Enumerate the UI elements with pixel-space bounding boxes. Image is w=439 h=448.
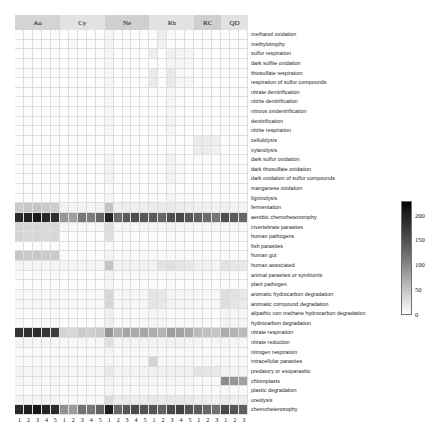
heatmap-cell [203,184,212,194]
heatmap-cell [123,194,132,204]
heatmap-cell [230,271,239,281]
heatmap-cell [167,107,176,117]
heatmap-cell [15,165,24,175]
heatmap-cell [69,405,78,415]
heatmap-cell [230,78,239,88]
heatmap-cell [221,290,230,300]
heatmap-cell [69,338,78,348]
heatmap-cell [140,174,149,184]
heatmap-cell [96,126,105,136]
heatmap-cell [105,213,114,223]
heatmap-cell [194,136,203,146]
heatmap-cell [239,78,248,88]
heatmap-cell [230,328,239,338]
heatmap-cell [105,328,114,338]
heatmap-cell [194,126,203,136]
heatmap-cell [15,367,24,377]
heatmap-cell [78,49,87,59]
heatmap-cell [176,280,185,290]
heatmap-cell [24,213,33,223]
heatmap-cell [114,146,123,156]
heatmap-cell [69,300,78,310]
heatmap-cell [51,97,60,107]
heatmap-cell [239,251,248,261]
heatmap-cell [51,300,60,310]
heatmap-cell [140,348,149,358]
heatmap-cell [114,338,123,348]
heatmap-cell [149,155,158,165]
heatmap-cell [42,126,51,136]
heatmap-cell [105,146,114,156]
heatmap-cell [87,126,96,136]
heatmap-cell [105,97,114,107]
heatmap-cell [140,405,149,415]
x-tick-label: 3 [78,417,87,429]
heatmap-cell [239,165,248,175]
heatmap-cell [60,69,69,79]
heatmap-cell [158,242,167,252]
heatmap-cell [33,69,42,79]
heatmap-cell [212,319,221,329]
heatmap-cell [33,367,42,377]
heatmap-cell [60,194,69,204]
heatmap-cell [87,357,96,367]
heatmap-cell [78,309,87,319]
heatmap-cell [60,107,69,117]
heatmap-cell [42,232,51,242]
heatmap-cell [131,165,140,175]
x-tick-label: 2 [24,417,33,429]
heatmap-cell [149,328,158,338]
heatmap-cell [60,174,69,184]
heatmap-cell [15,88,24,98]
heatmap-cell [185,338,194,348]
heatmap-cell [167,357,176,367]
heatmap-cell [203,155,212,165]
heatmap-cell [87,309,96,319]
heatmap-cell [140,78,149,88]
heatmap-cell [78,405,87,415]
heatmap-cell [96,165,105,175]
heatmap-cell [176,232,185,242]
heatmap-cell [15,261,24,271]
heatmap-cell [15,59,24,69]
heatmap-cell [60,338,69,348]
heatmap-cell [60,328,69,338]
heatmap-cell [230,377,239,387]
heatmap-cell [176,184,185,194]
row-label: nitrate respiration [251,330,293,335]
heatmap-cell [105,271,114,281]
heatmap-cell [167,97,176,107]
heatmap-cell [140,97,149,107]
heatmap-cell [51,338,60,348]
heatmap-cell [221,357,230,367]
heatmap-cell [33,386,42,396]
heatmap-cell [149,348,158,358]
heatmap-cell [221,300,230,310]
heatmap-cell [60,271,69,281]
heatmap-cell [203,40,212,50]
heatmap-cell [78,213,87,223]
heatmap-cell [105,319,114,329]
heatmap-cell [212,117,221,127]
heatmap-cell [33,396,42,406]
heatmap-cell [239,300,248,310]
heatmap-cell [33,280,42,290]
heatmap-cell [78,357,87,367]
heatmap-cell [140,357,149,367]
heatmap-cell [230,40,239,50]
row-label: human gut [251,253,276,258]
heatmap-cell [140,213,149,223]
heatmap-cell [78,88,87,98]
heatmap-cell [96,377,105,387]
heatmap-cell [149,78,158,88]
heatmap-cell [221,213,230,223]
heatmap-cell [158,88,167,98]
heatmap-cell [185,223,194,233]
heatmap-cell [212,300,221,310]
heatmap-cell [158,117,167,127]
heatmap-cell [69,367,78,377]
heatmap-cell [203,405,212,415]
heatmap-cell [185,194,194,204]
heatmap-cell [78,78,87,88]
row-label: sulfur respiration [251,51,291,56]
